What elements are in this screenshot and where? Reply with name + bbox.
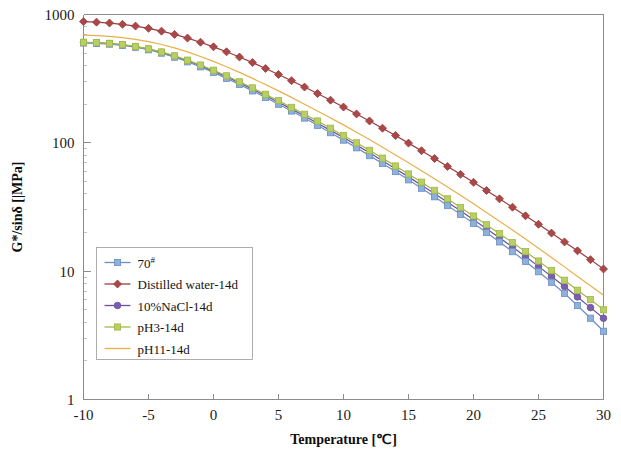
chart-legend: 70#Distilled water-14d10%NaCl-14dpH3-14d…	[97, 248, 253, 360]
x-tick-label: 15	[401, 407, 416, 423]
y-tick-label: 100	[52, 135, 75, 151]
x-axis: -10-5051015202530	[74, 394, 612, 423]
data-point-marker	[132, 22, 140, 30]
data-point-marker	[158, 27, 166, 35]
data-point-marker	[392, 163, 398, 169]
data-point-marker	[457, 211, 463, 217]
data-point-marker	[184, 34, 192, 42]
data-point-marker	[431, 187, 437, 193]
data-point-marker	[574, 287, 580, 293]
data-point-marker	[548, 279, 554, 285]
data-point-marker	[444, 202, 450, 208]
data-point-marker	[561, 238, 569, 246]
data-point-marker	[145, 46, 151, 52]
data-point-marker	[145, 24, 153, 32]
data-point-marker	[548, 268, 554, 274]
data-point-marker	[431, 194, 437, 200]
x-tick-label: 0	[210, 407, 218, 423]
legend-item-label: pH11-14d	[138, 342, 191, 357]
data-point-marker	[288, 104, 294, 110]
y-axis-title: G*/sinδ [|MPa]	[10, 162, 25, 253]
data-point-marker	[184, 57, 190, 63]
data-point-marker	[171, 30, 179, 38]
y-tick-label: 1000	[45, 7, 75, 23]
data-point-marker	[314, 118, 320, 124]
data-point-marker	[431, 154, 439, 162]
data-point-marker	[509, 249, 515, 255]
data-point-marker	[223, 48, 231, 56]
data-point-marker	[210, 43, 218, 51]
data-point-marker	[405, 171, 411, 177]
data-point-marker	[483, 222, 489, 228]
data-point-marker	[522, 258, 528, 264]
data-point-marker	[574, 247, 582, 255]
x-tick-label: 30	[596, 407, 611, 423]
data-point-marker	[114, 302, 121, 309]
data-point-marker	[366, 117, 374, 125]
data-point-marker	[444, 162, 452, 170]
data-point-marker	[197, 62, 203, 68]
data-point-marker	[470, 213, 476, 219]
data-point-marker	[158, 49, 164, 55]
data-point-marker	[379, 124, 387, 132]
data-point-marker	[457, 204, 463, 210]
data-point-marker	[418, 185, 424, 191]
data-point-marker	[535, 220, 543, 228]
data-point-marker	[470, 220, 476, 226]
data-point-marker	[288, 77, 296, 85]
data-point-marker	[262, 91, 268, 97]
series-line	[84, 22, 604, 269]
data-point-marker	[509, 203, 517, 211]
data-point-marker	[470, 178, 478, 186]
data-point-marker	[106, 40, 112, 46]
data-point-marker	[535, 269, 541, 275]
data-point-marker	[496, 195, 504, 203]
data-point-marker	[262, 64, 270, 72]
data-point-marker	[93, 18, 101, 26]
data-point-marker	[275, 98, 281, 104]
data-point-marker	[249, 85, 255, 91]
data-point-marker	[600, 265, 608, 273]
legend-item-label: pH3-14d	[138, 320, 185, 335]
data-point-marker	[197, 38, 205, 46]
data-point-marker	[353, 140, 359, 146]
data-point-marker	[522, 212, 530, 220]
data-point-marker	[587, 304, 594, 311]
data-point-marker	[119, 20, 127, 28]
x-tick-label: -5	[142, 407, 155, 423]
data-point-marker	[353, 110, 361, 118]
data-point-marker	[587, 256, 595, 264]
legend-item-label: Distilled water-14d	[138, 277, 239, 292]
chart-container: 1101001000-10-5051015202530Temperature […	[0, 0, 621, 454]
data-point-marker	[509, 239, 515, 245]
x-tick-label: 25	[531, 407, 546, 423]
data-point-marker	[114, 324, 120, 330]
data-point-marker	[301, 111, 307, 117]
x-tick-label: 20	[466, 407, 481, 423]
data-point-marker	[340, 132, 346, 138]
data-point-marker	[106, 19, 114, 27]
data-point-marker	[535, 258, 541, 264]
y-tick-label: 10	[60, 264, 75, 280]
data-point-marker	[236, 79, 242, 85]
data-point-marker	[600, 315, 607, 322]
data-point-marker	[496, 231, 502, 237]
data-point-marker	[171, 53, 177, 59]
data-point-marker	[223, 73, 229, 79]
data-point-marker	[275, 70, 283, 78]
data-point-marker	[574, 302, 580, 308]
data-point-marker	[561, 283, 568, 290]
data-point-marker	[392, 132, 400, 140]
data-point-marker	[561, 290, 567, 296]
data-point-marker	[587, 297, 593, 303]
data-point-marker	[561, 277, 567, 283]
data-point-marker	[314, 90, 322, 98]
data-point-marker	[379, 155, 385, 161]
legend-item-label: 10%NaCl-14d	[138, 299, 214, 314]
line-chart: 1101001000-10-5051015202530Temperature […	[0, 0, 621, 454]
data-point-marker	[600, 307, 606, 313]
svg-text:G*/sinδ [|MPa]: G*/sinδ [|MPa]	[10, 162, 25, 253]
data-point-marker	[418, 147, 426, 155]
data-point-marker	[457, 170, 465, 178]
x-axis-title: Temperature [℃]	[290, 432, 397, 447]
